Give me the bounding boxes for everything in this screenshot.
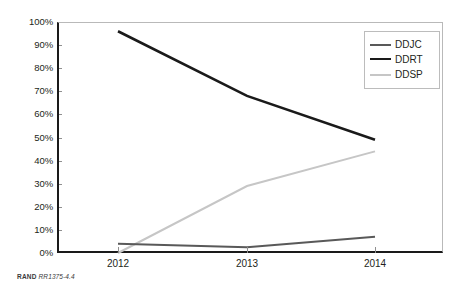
legend-swatch-icon [370, 70, 391, 80]
figure-credit-org: RAND [17, 273, 37, 280]
x-axis-tick-label: 2014 [345, 258, 405, 269]
legend-swatch-icon [370, 55, 391, 65]
y-axis-tick-label: 100% [9, 17, 53, 27]
x-axis-tick-mark [375, 247, 376, 253]
x-axis-tick-mark [247, 247, 248, 253]
y-axis-tick-label: 20% [9, 202, 53, 212]
legend-item-label: DDJC [391, 39, 422, 50]
y-axis: 0%10%20%30%40%50%60%70%80%90%100% [5, 0, 53, 289]
x-axis-tick-mark [118, 247, 119, 253]
legend-item-label: DDRT [391, 54, 423, 65]
legend-item-ddjc: DDJC [370, 37, 435, 52]
figure-credit-id: RR1375-4.4 [37, 273, 75, 280]
chart-legend: DDJCDDRTDDSP [364, 31, 440, 89]
legend-item-ddsp: DDSP [370, 67, 435, 82]
x-axis-tick-label: 2013 [217, 258, 277, 269]
y-axis-tick-label: 40% [9, 156, 53, 166]
y-axis-tick-label: 50% [9, 133, 53, 143]
y-axis-tick-label: 0% [9, 248, 53, 258]
y-axis-tick-label: 90% [9, 40, 53, 50]
chart-figure: 0%10%20%30%40%50%60%70%80%90%100% DDJCDD… [0, 0, 463, 289]
y-axis-tick-label: 10% [9, 225, 53, 235]
y-axis-tick-label: 70% [9, 86, 53, 96]
legend-swatch-icon [370, 40, 391, 50]
figure-credit: RANDRR1375-4.4 [17, 273, 75, 281]
y-axis-tick-label: 80% [9, 63, 53, 73]
x-axis-tick-label: 2012 [88, 258, 148, 269]
legend-item-ddrt: DDRT [370, 52, 435, 67]
y-axis-tick-label: 30% [9, 179, 53, 189]
y-axis-tick-label: 60% [9, 109, 53, 119]
legend-item-label: DDSP [391, 69, 423, 80]
